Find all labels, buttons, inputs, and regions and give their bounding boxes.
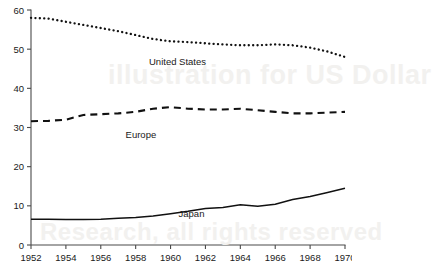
series-label-japan: Japan <box>179 208 205 219</box>
y-axis-tick-label: 0 <box>19 240 24 251</box>
y-axis-tick-label: 40 <box>13 83 24 94</box>
y-axis-tick-label: 20 <box>13 161 24 172</box>
series-label-europe: Europe <box>126 129 157 140</box>
series-line-europe <box>31 107 345 121</box>
y-axis-tick-label: 60 <box>13 5 24 16</box>
series-label-united-states: United States <box>149 56 206 67</box>
y-axis-tick-label: 30 <box>13 122 24 133</box>
series-line-united-states <box>31 18 345 57</box>
y-axis-tick-label: 10 <box>13 200 24 211</box>
figure-caption <box>2 262 350 271</box>
y-axis-tick-label: 50 <box>13 44 24 55</box>
